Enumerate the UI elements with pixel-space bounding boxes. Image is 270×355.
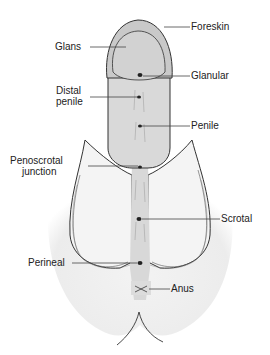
label-anus: Anus xyxy=(171,283,194,294)
scrotal-point xyxy=(137,217,142,221)
anus-mark xyxy=(131,281,151,295)
penile-point xyxy=(138,124,142,127)
label-glanular: Glanular xyxy=(191,70,229,81)
label-distal-penile-line2: penile xyxy=(56,96,83,107)
label-perineal: Perineal xyxy=(28,257,65,268)
label-penoscrotal-line1: Penoscrotal xyxy=(10,155,63,166)
perineal-point xyxy=(138,261,143,265)
label-foreskin: Foreskin xyxy=(191,21,229,32)
label-glans: Glans xyxy=(55,41,81,52)
distal-penile-point xyxy=(137,95,141,98)
median-raphe xyxy=(130,160,150,300)
label-penile: Penile xyxy=(191,120,219,131)
label-distal-penile-line1: Distal xyxy=(56,85,81,96)
glanular-point xyxy=(138,73,143,77)
penoscrotal-point xyxy=(138,165,142,168)
anatomy-illustration xyxy=(0,0,270,355)
label-penoscrotal-line2: junction xyxy=(22,166,56,177)
label-scrotal: Scrotal xyxy=(221,213,252,224)
penile-shaft xyxy=(108,75,170,168)
